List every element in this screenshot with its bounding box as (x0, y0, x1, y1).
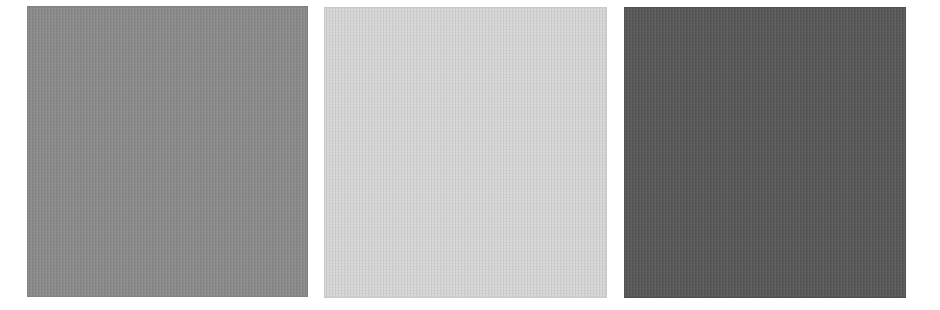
linen-texture (625, 8, 905, 297)
swatch-mid-gray (27, 6, 308, 297)
swatch-dark-gray (624, 7, 906, 298)
swatch-light-gray (324, 7, 607, 298)
linen-texture (28, 7, 307, 296)
linen-texture (325, 8, 606, 297)
swatch-canvas (0, 0, 940, 310)
